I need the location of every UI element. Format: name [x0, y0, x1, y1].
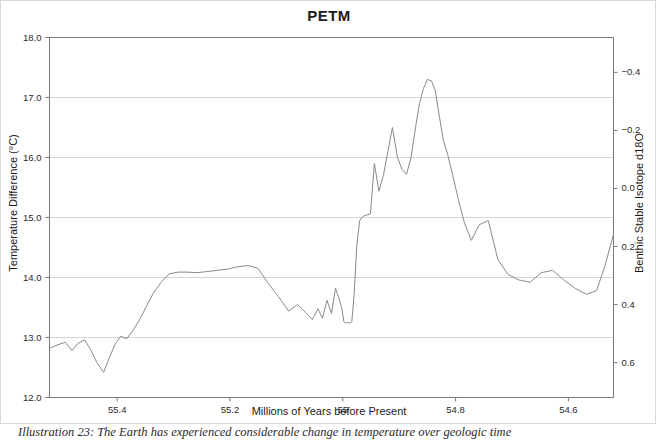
- y-axis-left-tick-label: 15.0: [2, 212, 42, 223]
- y-axis-right-tick-label: 0.0: [622, 182, 656, 193]
- x-axis-tick-label: 54.6: [538, 404, 598, 415]
- chart-figure: PETM Temperature Difference (°C) Benthic…: [0, 0, 656, 424]
- y-axis-left-tick-label: 13.0: [2, 332, 42, 343]
- y-axis-right-title: Benthic Stable Isotope d18O: [633, 118, 645, 288]
- y-axis-left-tick-label: 16.0: [2, 152, 42, 163]
- gridlines: [50, 98, 614, 338]
- x-axis-tick-label: 54.8: [426, 404, 486, 415]
- data-line-temperature: [50, 80, 614, 373]
- figure-caption: Illustration 23: The Earth has experienc…: [18, 425, 638, 440]
- x-axis-tick-label: 55.4: [87, 404, 147, 415]
- y-axis-right-tick-label: 0.2: [622, 241, 656, 252]
- chart-plot-area: [1, 1, 656, 425]
- y-axis-left-tick-label: 12.0: [2, 392, 42, 403]
- x-axis-tick-label: 55: [313, 404, 373, 415]
- y-axis-right-tick-label: −0.4: [622, 66, 656, 77]
- x-axis-tick-label: 55.2: [200, 404, 260, 415]
- y-axis-left-tick-label: 17.0: [2, 92, 42, 103]
- y-axis-left-tick-label: 14.0: [2, 272, 42, 283]
- y-axis-right-tick-label: 0.6: [622, 357, 656, 368]
- tick-marks: [46, 38, 618, 402]
- y-axis-left-tick-label: 18.0: [2, 32, 42, 43]
- y-axis-right-tick-label: −0.2: [622, 124, 656, 135]
- y-axis-right-tick-label: 0.4: [622, 299, 656, 310]
- y-axis-left-title: Temperature Difference (°C): [7, 118, 19, 288]
